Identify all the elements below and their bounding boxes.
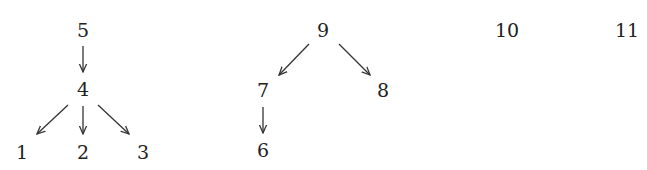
- node-6: 6: [257, 141, 269, 160]
- node-11: 11: [615, 21, 639, 40]
- edge-9-to-7-arrow-icon: [279, 44, 309, 75]
- node-4: 4: [77, 80, 89, 99]
- node-10: 10: [495, 21, 519, 40]
- edge-4-to-3-arrow-icon: [98, 105, 129, 134]
- tree-diagram: 5 4 1 2 3 9 7 8 6 10 11: [0, 0, 647, 170]
- node-3: 3: [137, 143, 149, 162]
- node-1: 1: [16, 143, 28, 162]
- edge-9-to-8-arrow-icon: [339, 44, 370, 75]
- edge-4-to-1-arrow-icon: [37, 105, 68, 134]
- node-5: 5: [77, 21, 89, 40]
- node-8: 8: [377, 81, 389, 100]
- node-9: 9: [317, 21, 329, 40]
- node-2: 2: [77, 143, 89, 162]
- node-7: 7: [257, 81, 269, 100]
